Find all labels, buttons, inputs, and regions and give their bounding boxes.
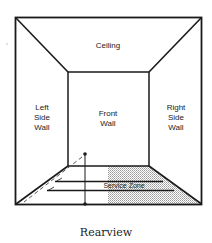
- right-side-wall-label: Right Side Wall: [157, 103, 195, 133]
- right-side-wall-label-line2: Side: [157, 113, 195, 123]
- front-wall-label-line1: Front: [88, 109, 128, 119]
- left-side-wall-label-line2: Side: [24, 113, 60, 123]
- front-wall-label: Front Wall: [88, 109, 128, 129]
- stray-mark: [6, 43, 7, 44]
- edge-top-left: [16, 18, 69, 73]
- diagram-caption: Rearview: [0, 226, 212, 239]
- marker-dot-bottom: [83, 202, 87, 206]
- right-side-wall-label-line3: Wall: [157, 123, 195, 133]
- edge-bottom-left: [16, 166, 68, 204]
- right-side-wall-label-line1: Right: [157, 103, 195, 113]
- front-wall-label-line2: Wall: [88, 119, 128, 129]
- edge-top-right: [149, 18, 202, 73]
- service-zone-label: Service Zone: [94, 181, 154, 190]
- marker-dot-top: [83, 152, 87, 156]
- dashed-trajectory-line: [24, 157, 82, 202]
- left-side-wall-label-line1: Left: [24, 103, 60, 113]
- left-side-wall-label: Left Side Wall: [24, 103, 60, 133]
- ceiling-label: Ceiling: [88, 41, 128, 51]
- left-side-wall-label-line3: Wall: [24, 123, 60, 133]
